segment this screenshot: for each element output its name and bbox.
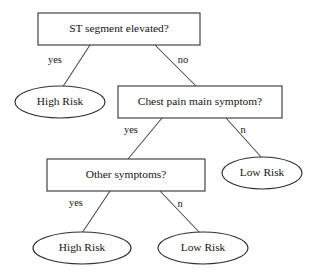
- node-shape-group: [15, 13, 302, 264]
- node-label-low-risk-bottom: Low Risk: [181, 241, 226, 253]
- node-label-chest-pain-main-symptom: Chest pain main symptom?: [138, 95, 262, 107]
- edge-label-root-no: no: [178, 54, 188, 65]
- node-label-high-risk-bottom: High Risk: [59, 241, 106, 253]
- edge-label-other-n: n: [177, 198, 183, 209]
- edge-label-chest-yes: yes: [124, 124, 138, 135]
- node-label-group: ST segment elevated? High Risk Chest pai…: [37, 22, 285, 253]
- edge-label-other-yes: yes: [69, 197, 83, 208]
- node-label-st-segment-elevated: ST segment elevated?: [69, 22, 169, 34]
- decision-tree-canvas: ST segment elevated? High Risk Chest pai…: [0, 0, 312, 277]
- edge-root-no: [155, 45, 196, 86]
- edge-group: [62, 45, 262, 233]
- node-label-other-symptoms: Other symptoms?: [86, 168, 167, 180]
- edge-other-n: [160, 191, 200, 233]
- edge-label-root-yes: yes: [48, 54, 62, 65]
- edge-root-yes: [62, 45, 90, 88]
- decision-tree-diagram: ST segment elevated? High Risk Chest pai…: [0, 0, 312, 277]
- node-label-low-risk-right: Low Risk: [240, 166, 285, 178]
- edge-other-yes: [82, 191, 110, 233]
- node-label-high-risk-top: High Risk: [37, 95, 84, 107]
- edge-label-chest-n: n: [240, 124, 246, 135]
